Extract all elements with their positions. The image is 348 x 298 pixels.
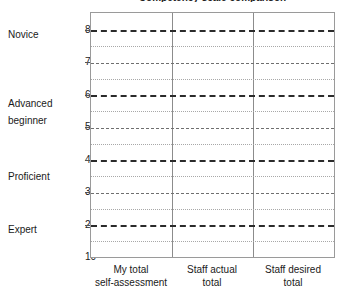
x-axis-label-2-line1: Staff actual [171, 263, 253, 276]
band-label-proficient: Proficient [8, 170, 80, 184]
x-axis-label-2-line2: total [171, 276, 253, 289]
x-axis-label-1-line1: My total [90, 263, 172, 276]
x-axis-label-3-line1: Staff desired [252, 263, 334, 276]
chart-title: Competency scale comparison [90, 0, 335, 2]
gridline-minor-59 [91, 111, 334, 112]
plot-area [90, 12, 335, 258]
gridline-major-43 [91, 160, 334, 162]
x-axis-label-staff-actual-total: Staff actual total [171, 263, 253, 289]
band-label-advanced-beginner-line1: Advanced [8, 97, 80, 111]
gridline-minor-70 [91, 79, 334, 80]
gridline-major-87 [91, 30, 334, 32]
band-label-advanced-beginner: Advanced beginner [8, 97, 86, 128]
gridline-minor-26 [91, 209, 334, 210]
x-axis-label-3-line2: total [252, 276, 334, 289]
band-label-expert: Expert [8, 223, 80, 237]
x-axis-label-staff-desired-total: Staff desired total [252, 263, 334, 289]
chart-container: Competency scale comparison 87 76 65 54 … [0, 0, 348, 298]
column-separator-2 [253, 13, 254, 257]
band-label-novice: Novice [8, 28, 80, 42]
gridline-minor-48 [91, 144, 334, 145]
gridline-minor-81 [91, 46, 334, 47]
gridline-mid-76 [91, 63, 334, 64]
gridline-mid-54 [91, 128, 334, 129]
gridline-mid-32 [91, 193, 334, 194]
gridline-major-21 [91, 225, 334, 227]
column-separator-1 [172, 13, 173, 257]
x-axis-label-my-total-self-assessment: My total self-assessment [90, 263, 172, 289]
x-axis-label-1-line2: self-assessment [90, 276, 172, 289]
band-label-advanced-beginner-line2: beginner [8, 114, 80, 128]
gridline-minor-15 [91, 241, 334, 242]
gridline-minor-37 [91, 176, 334, 177]
gridline-major-65 [91, 95, 334, 97]
